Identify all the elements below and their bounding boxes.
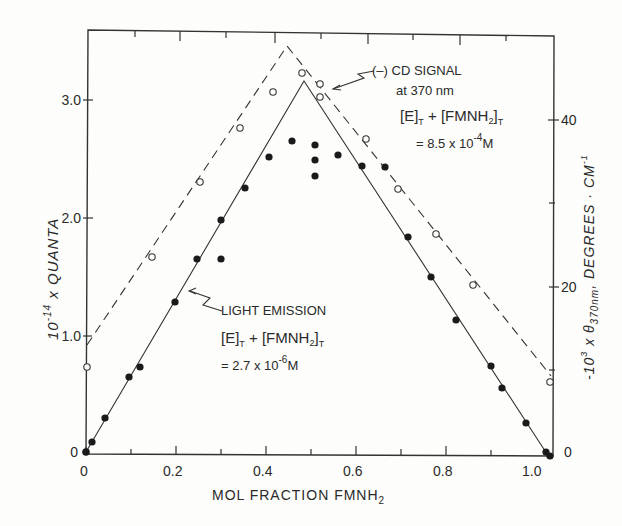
left-axis-title: 10-14 x QUANTA — [42, 218, 61, 340]
light-emission-annotation-arrow — [189, 288, 222, 311]
x-tick-1.0: 1.0 — [522, 463, 542, 479]
le-conc-expr: [E]T + [FMNH2]T — [221, 329, 325, 349]
left-tick-3: 3.0 — [62, 92, 82, 108]
right-tick-labels: 0 20 40 — [561, 112, 577, 460]
x-tick-0.8: 0.8 — [433, 463, 453, 479]
light-emission-annotation: LIGHT EMISSION [E]T + [FMNH2]T = 2.7 x 1… — [221, 303, 326, 373]
left-tick-2: 2.0 — [62, 210, 82, 226]
x-tick-0.2: 0.2 — [163, 463, 183, 479]
x-tick-0: 0 — [80, 463, 88, 479]
cd-annotation-arrow — [333, 71, 374, 90]
x-tick-0.4: 0.4 — [253, 463, 273, 479]
right-tick-0: 0 — [564, 444, 572, 460]
light-emission-points — [82, 137, 553, 459]
x-tick-0.6: 0.6 — [343, 463, 363, 479]
x-axis-title: MOL FRACTION FMNH2 — [212, 487, 385, 506]
cd-conc-expr: [E]T + [FMNH2]T — [400, 107, 504, 127]
cd-annotation: (–) CD SIGNAL at 370 nm [E]T + [FMNH2]T … — [372, 63, 504, 151]
right-axis-title: -103 x θ370nm, DEGREES · CM-1 — [579, 154, 600, 380]
job-plot-chart: 0 0.2 0.4 0.6 0.8 1.0 0 1.0 2.0 3.0 0 20… — [0, 0, 622, 526]
cd-title: (–) CD SIGNAL — [372, 63, 462, 78]
right-tick-20: 20 — [561, 279, 577, 295]
cd-wavelength: at 370 nm — [396, 83, 454, 98]
left-tick-labels: 0 1.0 2.0 3.0 — [62, 92, 82, 460]
right-tick-40: 40 — [561, 112, 577, 128]
top-axis-ticks — [135, 31, 506, 45]
le-conc-value: = 2.7 x 10-6M — [221, 354, 298, 373]
light-emission-title: LIGHT EMISSION — [221, 303, 326, 318]
cd-conc-value: = 8.5 x 10-4M — [416, 132, 493, 151]
left-tick-0: 0 — [70, 444, 78, 460]
x-tick-labels: 0 0.2 0.4 0.6 0.8 1.0 — [80, 463, 542, 479]
left-tick-1: 1.0 — [62, 328, 82, 344]
